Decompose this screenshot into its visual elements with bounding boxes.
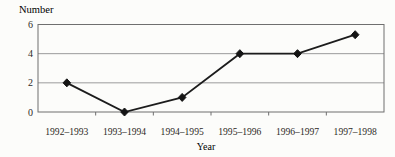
plot-border [38, 25, 384, 113]
y-axis-title: Number [19, 4, 54, 15]
x-tick-label: 1996–1997 [276, 126, 319, 137]
x-tick-label: 1995–1996 [218, 126, 261, 137]
x-axis-title: Year [197, 141, 216, 152]
y-tick-label: 6 [28, 19, 33, 30]
x-tick-label: 1994–1995 [161, 126, 204, 137]
data-point-marker [63, 79, 71, 87]
x-tick-label: 1993–1994 [103, 126, 146, 137]
y-tick-label: 2 [28, 77, 33, 88]
plot-area: 02461992–19931993–19941994–19951995–1996… [28, 19, 384, 137]
y-tick-label: 0 [28, 107, 33, 118]
chart-figure: Number 02461992–19931993–19941994–199519… [0, 0, 395, 157]
data-point-marker [121, 108, 129, 116]
x-tick-label: 1992–1993 [45, 126, 88, 137]
data-point-marker [294, 50, 302, 58]
line-chart: Number 02461992–19931993–19941994–199519… [0, 0, 395, 157]
data-point-marker [351, 31, 359, 39]
y-tick-label: 4 [28, 48, 33, 59]
data-line [67, 35, 355, 112]
x-tick-label: 1997–1998 [334, 126, 377, 137]
